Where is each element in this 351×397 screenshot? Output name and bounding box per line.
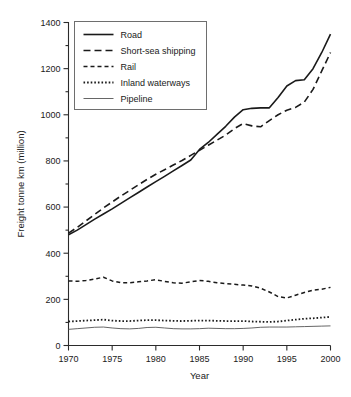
x-tick-label: 2000 [320, 354, 340, 364]
series-line-rail [69, 277, 331, 298]
x-tick-label: 1970 [58, 354, 78, 364]
x-tick-label: 1995 [277, 354, 297, 364]
line-chart: 0200400600800100012001400197019751980198… [0, 0, 351, 397]
series-line-pipeline [69, 326, 331, 329]
y-tick-label: 800 [45, 156, 60, 166]
x-axis-title: Year [190, 370, 209, 381]
y-tick-label: 1400 [40, 18, 60, 28]
y-tick-label: 0 [55, 341, 60, 351]
legend-label-short-sea-shipping: Short-sea shipping [121, 46, 196, 56]
series-line-inland-waterways [69, 317, 331, 322]
legend-label-rail: Rail [121, 62, 137, 72]
y-tick-label: 1200 [40, 64, 60, 74]
x-tick-label: 1975 [102, 354, 122, 364]
legend-label-road: Road [121, 30, 143, 40]
x-tick-label: 1980 [146, 354, 166, 364]
x-tick-label: 1985 [189, 354, 209, 364]
legend-label-pipeline: Pipeline [121, 94, 153, 104]
chart-figure: 0200400600800100012001400197019751980198… [0, 0, 351, 397]
y-tick-label: 200 [45, 295, 60, 305]
y-tick-label: 600 [45, 202, 60, 212]
y-tick-label: 1000 [40, 110, 60, 120]
y-tick-label: 400 [45, 249, 60, 259]
x-tick-label: 1990 [233, 354, 253, 364]
legend-label-inland-waterways: Inland waterways [121, 78, 191, 88]
y-axis-title: Freight tonne km (million) [15, 130, 26, 237]
